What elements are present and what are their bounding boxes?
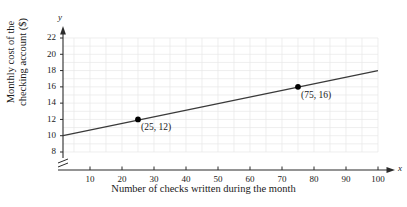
y-axis-title-line-2: checking account ($) <box>17 0 29 126</box>
y-axis-letter: y <box>58 12 62 22</box>
y-tick-label: 18 <box>40 66 56 75</box>
point-annotation: (75, 16) <box>301 90 331 100</box>
y-tick-label: 10 <box>40 131 56 140</box>
y-axis-break-icon <box>58 159 68 167</box>
point-annotation: (25, 12) <box>141 122 171 132</box>
y-tick-label: 16 <box>40 82 56 91</box>
y-tick-label: 22 <box>40 33 56 42</box>
x-axis-letter: x <box>398 163 402 173</box>
y-axis-title-line-1: Monthly cost of the <box>5 0 17 126</box>
y-tick-label: 8 <box>40 147 56 156</box>
data-point <box>295 84 301 90</box>
y-axis-arrowhead <box>60 26 66 35</box>
x-axis-title: Number of checks written during the mont… <box>0 183 407 194</box>
y-tick-label: 20 <box>40 50 56 59</box>
x-axis-arrowhead <box>387 167 396 173</box>
chart-figure: 22 20 18 16 14 12 10 8 10 20 30 40 50 60… <box>0 0 407 207</box>
y-axis-title: Monthly cost of the checking account ($) <box>5 0 29 126</box>
y-tick-label: 12 <box>40 115 56 124</box>
y-tick-label: 14 <box>40 98 56 107</box>
